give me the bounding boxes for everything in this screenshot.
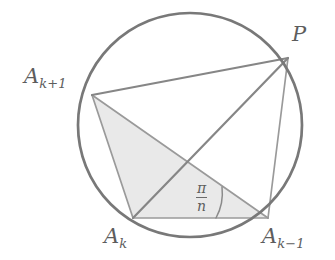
angle-label-pi-over-n: π n	[196, 181, 207, 213]
angle-label-numerator: π	[196, 181, 207, 197]
vertex-label-akminus1-subscript: k−1	[277, 236, 305, 251]
angle-label-denominator: n	[196, 198, 207, 214]
vertex-label-akminus1: Ak−1	[262, 226, 305, 247]
vertex-label-p-text: P	[292, 22, 306, 46]
vertex-label-ak-base: A	[104, 224, 119, 248]
vertex-label-akplus1-base: A	[24, 64, 39, 88]
vertex-label-ak-subscript: k	[119, 236, 127, 251]
geometry-canvas	[0, 0, 335, 260]
vertex-label-ak: Ak	[104, 226, 127, 247]
vertex-label-p: P	[292, 24, 306, 45]
geometry-figure: P Ak+1 Ak Ak−1 π n	[0, 0, 335, 260]
vertex-label-akplus1: Ak+1	[24, 66, 67, 87]
vertex-label-akplus1-subscript: k+1	[39, 76, 67, 91]
vertex-label-akminus1-base: A	[262, 224, 277, 248]
